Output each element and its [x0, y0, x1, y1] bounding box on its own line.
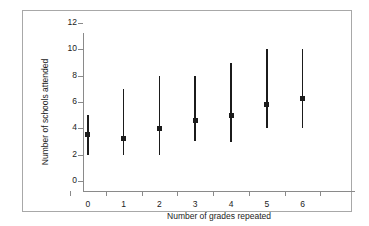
y-axis-tick-label-text: 0 — [47, 176, 77, 184]
data-point-marker — [85, 132, 90, 137]
chart-figure: 024681012 0123456 Number of grades repea… — [0, 0, 369, 226]
data-point-marker — [121, 136, 126, 141]
y-axis-line — [83, 33, 84, 192]
error-bar — [194, 76, 196, 142]
x-axis-tick-label: 2 — [147, 199, 171, 209]
y-axis-tick — [78, 128, 83, 129]
data-point-marker — [229, 113, 234, 118]
y-axis-tick-label: 0 — [39, 176, 77, 186]
error-bar — [123, 89, 125, 155]
data-point-marker — [193, 118, 198, 123]
y-axis-tick — [78, 23, 83, 24]
x-axis-tick-label: 5 — [255, 199, 279, 209]
y-axis-tick — [78, 102, 83, 103]
error-bar — [230, 63, 232, 142]
y-axis-tick-label-text: 2 — [47, 150, 77, 158]
x-axis-tick — [106, 191, 107, 196]
x-axis-line — [83, 191, 355, 192]
x-axis-tick-label: 3 — [183, 199, 207, 209]
x-axis-tick-label: 4 — [219, 199, 243, 209]
y-axis-title: Number of schools attended — [40, 47, 50, 177]
y-axis-tick — [78, 49, 83, 50]
x-axis-tick — [285, 191, 286, 196]
x-axis-tick — [213, 191, 214, 196]
x-axis-tick — [320, 191, 321, 196]
x-axis-title: Number of grades repeated — [83, 211, 355, 221]
y-axis-tick-label-text: 6 — [47, 97, 77, 105]
y-axis-tick-label-text: 12 — [47, 18, 77, 26]
data-point-marker — [157, 126, 162, 131]
x-axis-tick — [177, 191, 178, 196]
x-axis-tick — [142, 191, 143, 196]
x-axis-tick — [70, 191, 71, 196]
y-axis-tick-label-text: 4 — [47, 123, 77, 131]
y-axis-tick-label: 12 — [39, 18, 77, 28]
error-bar — [302, 49, 304, 128]
x-axis-tick-label: 6 — [291, 199, 315, 209]
y-axis-tick — [78, 155, 83, 156]
error-bar — [266, 49, 268, 128]
y-axis-tick — [78, 181, 83, 182]
x-axis-tick-label: 1 — [112, 199, 136, 209]
x-axis-tick — [249, 191, 250, 196]
y-axis-tick-label-text: 8 — [47, 71, 77, 79]
y-axis-tick — [78, 76, 83, 77]
x-axis-tick-label: 0 — [76, 199, 100, 209]
data-point-marker — [264, 102, 269, 107]
data-point-marker — [300, 96, 305, 101]
error-bar — [159, 76, 161, 155]
y-axis-tick-label-text: 10 — [47, 44, 77, 52]
figure-frame: 024681012 0123456 Number of grades repea… — [22, 10, 352, 212]
